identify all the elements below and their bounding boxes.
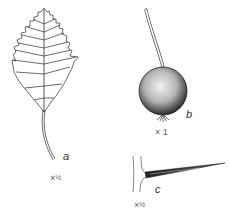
leaf-illustration: [12, 8, 78, 160]
scale-value: ½: [55, 174, 61, 181]
thorn-spike: [145, 163, 225, 178]
panel-label-c: c: [155, 184, 161, 195]
botanical-figure: [0, 0, 231, 215]
fruit-berry: [139, 67, 187, 115]
thorn-illustration: [133, 156, 225, 192]
leaf-petiole: [42, 110, 55, 160]
scale-value: 1: [163, 127, 168, 137]
scale-note-a: ×½: [50, 173, 61, 183]
scale-note-b: × 1: [155, 127, 168, 137]
panel-label-a: a: [63, 151, 69, 162]
panel-label-b: b: [186, 109, 192, 120]
fruit-illustration: [139, 10, 187, 122]
scale-prefix: ×: [155, 127, 160, 137]
scale-note-c: ×½: [134, 200, 145, 210]
scale-value: ½: [139, 201, 145, 208]
fruit-calyx: [157, 114, 169, 122]
twig-outline: [133, 156, 146, 192]
